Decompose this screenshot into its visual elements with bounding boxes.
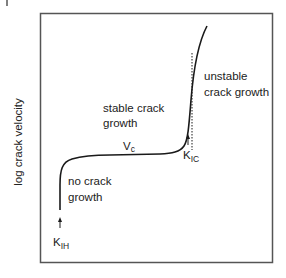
kih-arrow-icon <box>58 217 62 228</box>
kic-label: KIC <box>183 149 199 164</box>
no-growth-label-line2: growth <box>68 191 103 203</box>
unstable-growth-label-line1: unstable <box>204 70 247 82</box>
y-axis-label: log crack velocity <box>12 98 24 186</box>
kih-label: KIH <box>53 236 69 251</box>
vc-label: Vc <box>123 140 136 154</box>
unstable-growth-label-line2: crack growth <box>204 86 269 98</box>
stable-growth-label-line2: growth <box>103 117 138 129</box>
no-growth-label-line1: no crack <box>68 175 112 187</box>
crack-velocity-diagram: log crack velocity KIH KIC Vc stable cra… <box>0 0 286 278</box>
plot-frame <box>41 14 273 263</box>
stable-growth-label-line1: stable crack <box>103 102 165 114</box>
